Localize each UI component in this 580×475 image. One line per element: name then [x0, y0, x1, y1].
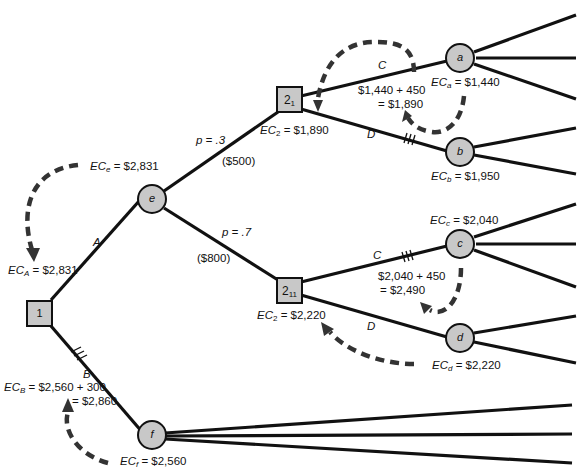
ec-2-11-label: EC2 = $2,220: [257, 309, 326, 325]
branch-c-3: [474, 250, 576, 287]
node-c-label: c: [446, 237, 474, 249]
branch-d-1: [474, 316, 576, 333]
prob-label-top: p = .3: [196, 134, 225, 147]
edge-A: [51, 200, 140, 300]
prob-label-bottom: p = .7: [222, 226, 251, 239]
cost-label-top: ($500): [222, 155, 255, 168]
edge-label-A: A: [93, 236, 101, 249]
branch-f-1: [165, 405, 572, 433]
node-b-label: b: [446, 145, 474, 157]
node-label-sub: 1: [291, 99, 295, 108]
arrowhead-icon: [313, 100, 323, 112]
ec-2-1-label: EC2 = $1,890: [260, 124, 329, 140]
node-2-11-label: 211: [277, 284, 302, 299]
edge-e-to-2-11: [164, 208, 278, 280]
ec-e-label: ECe = $2,831: [90, 160, 159, 176]
branch-b-1: [474, 128, 576, 147]
calc-bottom-line1: $2,040 + 450: [378, 270, 445, 283]
branch-f-2: [165, 434, 572, 436]
cost-label-bottom: ($800): [197, 252, 230, 265]
dashed-arrow-d-to-2-11: [330, 332, 414, 364]
node-label-main: 2: [282, 284, 289, 298]
node-label-sub: 11: [289, 290, 297, 299]
calc-top-line1: $1,440 + 450: [358, 84, 425, 97]
node-2-1-label: 21: [277, 93, 302, 108]
node-f-label: f: [138, 428, 166, 440]
calc-bottom-line2: = $2,490: [380, 284, 425, 297]
edge-label-D-bottom: D: [367, 320, 375, 333]
edge-label-D-top: D: [367, 128, 375, 141]
node-a-label: a: [446, 51, 474, 63]
calc-top-line2: = $1,890: [378, 98, 423, 111]
dashed-arrow-f-to-B: [67, 412, 108, 463]
prune-mark-D-top: [404, 133, 415, 145]
dashed-arrow-e-to-A: [27, 165, 78, 250]
ec-d-label: ECd = $2,220: [432, 359, 501, 375]
ec-A-label: ECA = $2,831: [8, 264, 78, 280]
prune-mark-C-bottom: [402, 250, 413, 262]
ec-b-label: ECb = $1,950: [431, 170, 500, 186]
edge-label-B: B: [83, 368, 91, 381]
edge-label-C-top: C: [378, 59, 386, 72]
ec-a-label: ECa = $1,440: [431, 76, 500, 92]
ec-B-result: = $2,860: [72, 395, 117, 408]
ec-f-label: ECf = $2,560: [120, 455, 187, 471]
ec-c-label: ECc = $2,040: [430, 214, 498, 230]
arrowhead-icon: [26, 248, 40, 262]
edge-label-C-bottom: C: [373, 249, 381, 262]
branch-a-1: [474, 15, 576, 52]
node-label-main: 2: [284, 93, 291, 107]
branch-f-3: [165, 439, 572, 463]
node-e-label: e: [138, 192, 166, 204]
node-1-label: 1: [27, 307, 52, 319]
node-d-label: d: [446, 331, 474, 343]
